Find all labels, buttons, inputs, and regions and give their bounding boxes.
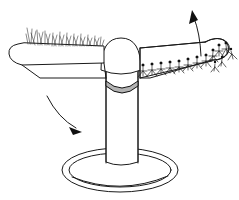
left-arm-bristled (9, 28, 106, 78)
left-downward-arrow (47, 96, 82, 135)
dome-cap-shape (101, 38, 141, 74)
diagram-canvas: Schematic line drawing of a stalked pede… (0, 0, 239, 200)
figure-item (211, 61, 219, 72)
left-arm-lower-edge (22, 65, 106, 78)
diagram-illustration (0, 0, 239, 200)
left-arm-bristle-group (26, 28, 104, 46)
left-arrow-shaft (47, 96, 76, 128)
central-column (106, 64, 138, 165)
left-arm-body (9, 43, 104, 65)
right-arm-populated (138, 38, 237, 78)
column-body (106, 64, 138, 165)
right-arrow-head (189, 10, 198, 24)
dome-cap (101, 38, 141, 74)
